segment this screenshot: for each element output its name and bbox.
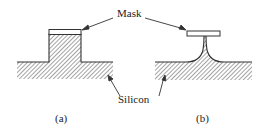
panel-b-label: (b) — [196, 112, 209, 124]
silicon-label: Silicon — [118, 93, 149, 105]
mask-arrow-b — [145, 18, 184, 29]
silicon-pillar-a — [17, 34, 113, 79]
diagram-canvas — [0, 0, 264, 131]
annotation-arrows — [82, 18, 186, 96]
panel-a-structure — [17, 30, 113, 80]
panel-a-label: (a) — [55, 112, 67, 124]
mask-a — [49, 30, 81, 35]
etch-profile-diagram: Mask Silicon (a) (b) — [0, 0, 264, 131]
mask-label: Mask — [117, 7, 141, 19]
panel-b-structure — [155, 31, 252, 80]
mask-b — [187, 31, 220, 36]
